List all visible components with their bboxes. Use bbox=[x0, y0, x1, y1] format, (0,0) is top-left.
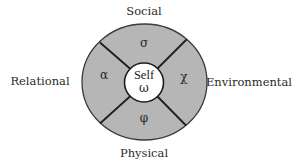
quadrant-symbol-social: σ bbox=[140, 36, 148, 50]
self-domains-diagram: Self ω σ χ φ α Social Environmental Phys… bbox=[0, 0, 303, 164]
quadrant-symbol-relational: α bbox=[100, 68, 108, 82]
center-label: Self bbox=[134, 68, 155, 82]
label-social: Social bbox=[126, 4, 162, 18]
label-environmental: Environmental bbox=[206, 75, 292, 89]
center-symbol: ω bbox=[139, 81, 149, 95]
quadrant-symbol-environmental: χ bbox=[180, 70, 188, 84]
label-relational: Relational bbox=[10, 74, 69, 88]
quadrant-symbol-physical: φ bbox=[140, 111, 148, 125]
label-physical: Physical bbox=[120, 146, 169, 160]
